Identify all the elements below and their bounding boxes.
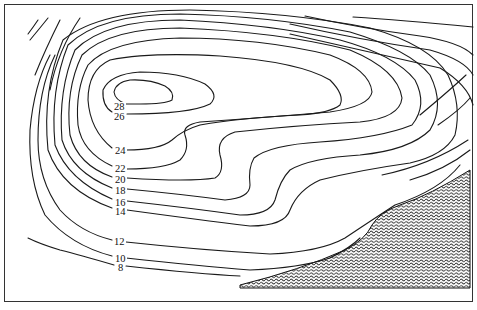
contour-fragment [438, 98, 470, 125]
contour-fragment [290, 34, 473, 105]
contour-fragment [382, 140, 468, 175]
contour-fragment [30, 18, 48, 40]
contour-label-24: 24 [114, 146, 127, 156]
contour-label-26: 26 [113, 112, 126, 122]
contour-label-8: 8 [117, 263, 124, 273]
contour-label-18: 18 [114, 186, 127, 196]
contour-label-14: 14 [114, 207, 127, 217]
contour-16 [54, 14, 438, 215]
contour-label-20: 20 [114, 175, 127, 185]
contour-label-12: 12 [113, 237, 126, 247]
contour-fragment [353, 17, 473, 27]
contour-10-left [30, 55, 112, 256]
contour-label-22: 22 [114, 164, 127, 174]
hatched-region [240, 170, 470, 288]
contour-map [0, 0, 477, 310]
contour-fragment [305, 16, 473, 55]
contour-24 [88, 55, 341, 150]
contour-8-left [28, 238, 114, 265]
